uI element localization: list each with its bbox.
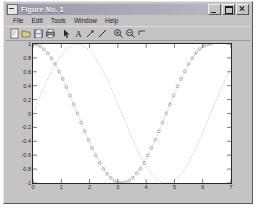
minimize-button[interactable] — [208, 4, 221, 15]
pointer-select-icon[interactable] — [61, 28, 72, 39]
zoom-out-icon[interactable] — [125, 28, 136, 39]
insert-line-icon[interactable] — [97, 28, 108, 39]
menu-item-file[interactable]: File — [9, 16, 27, 26]
x-axis-tick-label: 4 — [145, 184, 148, 190]
x-axis-tick-label: 6 — [201, 184, 204, 190]
y-axis-tick-label: 0.8 — [23, 55, 31, 61]
x-axis-tick-label: 1 — [60, 184, 63, 190]
x-axis-tick-label: 3 — [116, 184, 119, 190]
y-axis-tick-label: 0.4 — [23, 83, 31, 89]
figure-window: Figure No. 1 File Edit Tools Window Help — [3, 1, 253, 204]
y-axis-tick-label: 0 — [28, 111, 31, 117]
window-controls — [208, 4, 250, 15]
plot-axes[interactable]: 10.80.60.40.20-0.2-0.4-0.6-0.8-101234567 — [32, 43, 232, 184]
y-axis-tick-label: -0.4 — [22, 138, 31, 144]
rotate-3d-icon[interactable] — [137, 28, 148, 39]
title-bar[interactable]: Figure No. 1 — [6, 4, 250, 15]
x-axis-tick-label: 7 — [229, 184, 232, 190]
y-axis-tick-label: -0.6 — [22, 152, 31, 158]
menu-item-window[interactable]: Window — [70, 16, 101, 26]
y-axis-tick-label: 1 — [28, 41, 31, 47]
zoom-in-icon[interactable] — [113, 28, 124, 39]
menu-item-help[interactable]: Help — [101, 16, 122, 26]
menu-item-tools[interactable]: Tools — [47, 16, 70, 26]
insert-arrow-icon[interactable] — [85, 28, 96, 39]
maximize-button[interactable] — [222, 4, 235, 15]
x-axis-tick-label: 2 — [88, 184, 91, 190]
menu-item-edit[interactable]: Edit — [27, 16, 46, 26]
y-axis-tick-label: -0.8 — [22, 166, 31, 172]
open-file-icon[interactable] — [21, 28, 32, 39]
matlab-figure-icon[interactable] — [7, 4, 18, 15]
figure-canvas: 10.80.60.40.20-0.2-0.4-0.6-0.8-101234567 — [6, 40, 250, 201]
y-axis-tick-label: -0.2 — [22, 124, 31, 130]
x-axis-tick-label: 0 — [31, 184, 34, 190]
tool-bar: A — [6, 26, 250, 40]
close-button[interactable] — [236, 4, 249, 15]
y-axis-tick-label: 0.2 — [23, 97, 31, 103]
new-figure-icon[interactable] — [9, 28, 20, 39]
series-sine — [33, 44, 231, 183]
x-axis-tick-label: 5 — [173, 184, 176, 190]
y-axis-tick-label: 0.6 — [23, 69, 31, 75]
y-axis-tick-label: -1 — [26, 180, 31, 186]
plot-svg — [33, 44, 231, 183]
svg-text:A: A — [75, 29, 82, 39]
menu-bar: File Edit Tools Window Help — [6, 16, 250, 26]
series-cosine — [33, 44, 212, 183]
window-title: Figure No. 1 — [21, 6, 64, 13]
print-figure-icon[interactable] — [45, 28, 56, 39]
insert-text-icon[interactable]: A — [73, 28, 84, 39]
save-figure-icon[interactable] — [33, 28, 44, 39]
